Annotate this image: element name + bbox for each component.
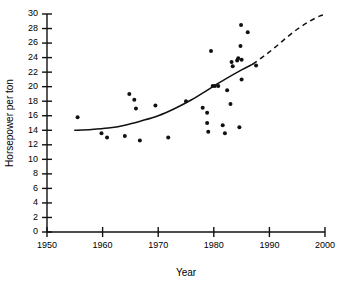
- y-tick-label-16: 16: [28, 110, 38, 120]
- data-point: [228, 102, 232, 106]
- data-point: [201, 106, 205, 110]
- chart-container: 024681012141618202224262830 195019601970…: [0, 0, 337, 286]
- data-point: [76, 115, 80, 119]
- data-point: [153, 104, 157, 108]
- y-tick-label-24: 24: [28, 52, 38, 62]
- y-tick-label-22: 22: [28, 67, 38, 77]
- x-tick-label-1970: 1970: [148, 240, 168, 250]
- y-axis-tick-labels: 024681012141618202224262830: [28, 8, 38, 236]
- data-point: [216, 84, 220, 88]
- data-point: [206, 130, 210, 134]
- data-point: [132, 98, 136, 102]
- data-point: [223, 131, 227, 135]
- data-point: [127, 92, 131, 96]
- data-point: [238, 44, 242, 48]
- y-tick-label-14: 14: [28, 125, 38, 135]
- data-point: [184, 99, 188, 103]
- data-point: [237, 125, 241, 129]
- data-point: [239, 23, 243, 27]
- y-tick-label-20: 20: [28, 81, 38, 91]
- y-tick-label-10: 10: [28, 154, 38, 164]
- data-point: [231, 64, 235, 68]
- y-axis-title: Horsepower per ton: [4, 79, 15, 167]
- y-tick-label-28: 28: [28, 23, 38, 33]
- y-tick-label-12: 12: [28, 139, 38, 149]
- x-tick-label-1980: 1980: [204, 240, 224, 250]
- y-tick-label-26: 26: [28, 37, 38, 47]
- data-point: [166, 136, 170, 140]
- y-tick-label-2: 2: [33, 212, 38, 222]
- x-tick-label-1950: 1950: [37, 240, 57, 250]
- data-point: [246, 30, 250, 34]
- data-point: [254, 64, 258, 68]
- data-point: [205, 121, 209, 125]
- horsepower-per-ton-scatter-chart: 024681012141618202224262830 195019601970…: [0, 0, 337, 286]
- y-tick-label-0: 0: [33, 226, 38, 236]
- data-point: [240, 77, 244, 81]
- y-tick-label-18: 18: [28, 96, 38, 106]
- trend-line-dashed-projection: [253, 15, 325, 64]
- trend-line-solid: [75, 64, 253, 130]
- data-point: [205, 111, 209, 115]
- data-point: [134, 106, 138, 110]
- y-tick-label-8: 8: [33, 168, 38, 178]
- data-point: [209, 49, 213, 53]
- x-axis-title: Year: [176, 267, 197, 278]
- y-tick-label-4: 4: [33, 197, 38, 207]
- data-point: [221, 123, 225, 127]
- scatter-points-group: [76, 23, 258, 143]
- data-point: [138, 138, 142, 142]
- data-point: [225, 88, 229, 92]
- x-axis-tick-labels: 195019601970198019902000: [37, 240, 335, 250]
- data-point: [123, 134, 127, 138]
- data-point: [105, 136, 109, 140]
- x-tick-label-2000: 2000: [315, 240, 335, 250]
- y-tick-label-30: 30: [28, 8, 38, 18]
- x-tick-label-1990: 1990: [259, 240, 279, 250]
- x-tick-label-1960: 1960: [93, 240, 113, 250]
- y-tick-label-6: 6: [33, 183, 38, 193]
- data-point: [240, 58, 244, 62]
- data-point: [230, 60, 234, 64]
- data-point: [99, 131, 103, 135]
